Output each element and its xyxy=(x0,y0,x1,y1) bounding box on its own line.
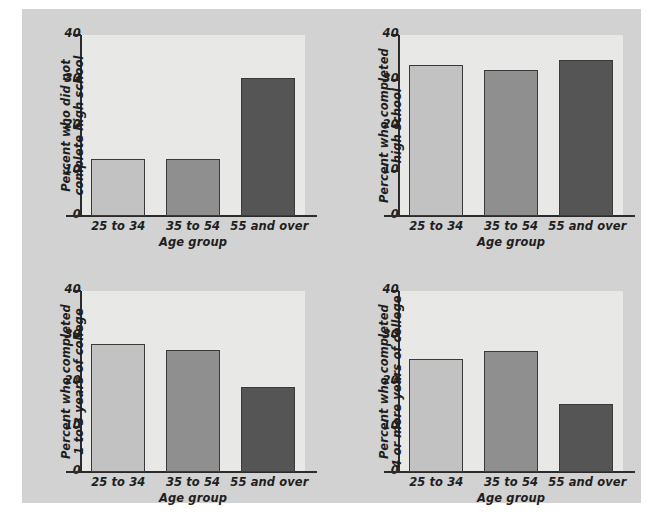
y-axis-title: Percent who did notcomplete high school xyxy=(56,35,90,216)
bar xyxy=(559,60,613,216)
figure-sheet: 01020304025 to 3435 to 5455 and overAge … xyxy=(0,0,661,527)
y-axis-title-line: 1 to 3 years of college xyxy=(73,308,86,455)
x-axis-title: Age group xyxy=(81,491,305,505)
bar xyxy=(409,65,463,216)
bar xyxy=(91,344,145,472)
bars-layer xyxy=(81,35,305,216)
chart-panel-bottom-right: 01020304025 to 3435 to 5455 and overAge … xyxy=(340,268,640,508)
x-axis-tick-label: 35 to 54 xyxy=(474,475,549,489)
bar xyxy=(166,350,220,472)
bar xyxy=(484,70,538,216)
y-axis-title-line: Percent who completed high school xyxy=(378,35,404,216)
x-axis-tick-label: 55 and over xyxy=(548,475,623,489)
bar xyxy=(484,351,538,472)
chart-panel-bottom-left: 01020304025 to 3435 to 5455 and overAge … xyxy=(22,268,322,508)
x-axis-tick-label: 55 and over xyxy=(230,475,305,489)
bar xyxy=(241,78,295,216)
x-axis-tick-label: 25 to 34 xyxy=(399,219,474,233)
bars-layer xyxy=(81,291,305,472)
y-axis-title-line: 4 or more years of college xyxy=(391,295,404,467)
y-axis-title: Percent who completed high school xyxy=(374,35,408,216)
chart-panel-top-right: 01020304025 to 3435 to 5455 and overAge … xyxy=(340,12,640,252)
x-axis-tick-label: 55 and over xyxy=(548,219,623,233)
x-axis-title: Age group xyxy=(399,235,623,249)
x-axis-tick-label: 35 to 54 xyxy=(156,475,231,489)
x-axis-tick-label: 25 to 34 xyxy=(399,475,474,489)
x-axis-tick-label: 25 to 34 xyxy=(81,219,156,233)
bars-layer xyxy=(399,291,623,472)
chart-panel-top-left: 01020304025 to 3435 to 5455 and overAge … xyxy=(22,12,322,252)
bar xyxy=(409,359,463,472)
bar xyxy=(91,159,145,216)
y-axis-title: Percent who completed4 or more years of … xyxy=(374,291,408,472)
y-axis-title: Percent who completed1 to 3 years of col… xyxy=(56,291,90,472)
x-axis-tick-label: 35 to 54 xyxy=(474,219,549,233)
x-axis-tick-label: 55 and over xyxy=(230,219,305,233)
bar xyxy=(559,404,613,472)
x-axis-title: Age group xyxy=(81,235,305,249)
x-axis-title: Age group xyxy=(399,491,623,505)
bar xyxy=(241,387,295,472)
x-axis-tick-label: 25 to 34 xyxy=(81,475,156,489)
y-axis-title-line: complete high school xyxy=(73,55,86,195)
bars-layer xyxy=(399,35,623,216)
bar xyxy=(166,159,220,216)
x-axis-tick-label: 35 to 54 xyxy=(156,219,231,233)
